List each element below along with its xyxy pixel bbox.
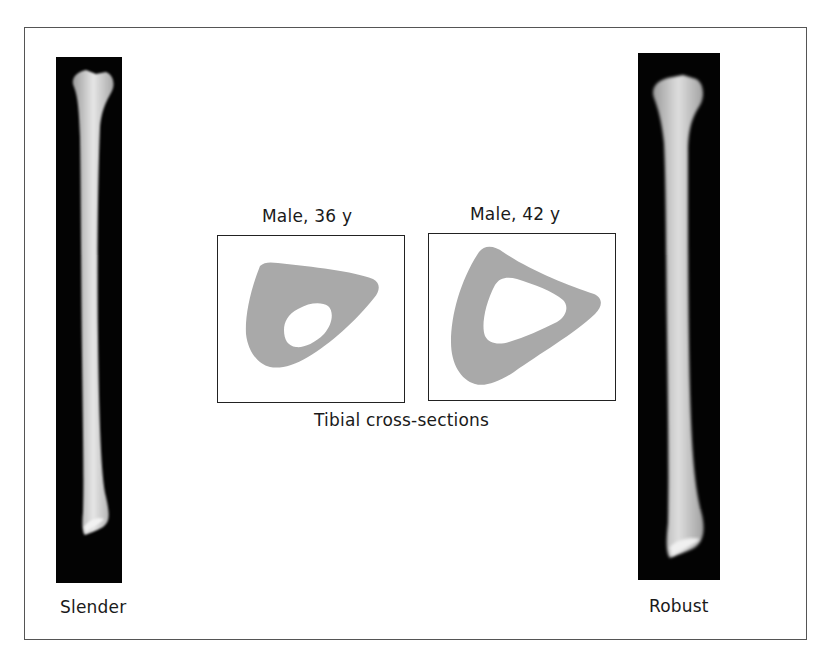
- cross-section-shape-42y: [429, 234, 614, 399]
- tibia-bone-image: [56, 57, 122, 583]
- slender-tibia-xray: [56, 57, 122, 583]
- cross-section-box-1: [217, 235, 405, 403]
- robust-tibia-xray: [638, 53, 720, 580]
- cross-section-box-2: [428, 233, 616, 401]
- cross-section-title-1: Male, 36 y: [262, 206, 352, 226]
- slender-label: Slender: [60, 597, 126, 617]
- robust-label: Robust: [649, 596, 709, 616]
- cross-section-title-2: Male, 42 y: [470, 204, 560, 224]
- cross-sections-caption: Tibial cross-sections: [314, 410, 489, 430]
- tibia-bone-image: [638, 53, 720, 580]
- cross-section-shape-36y: [218, 236, 403, 401]
